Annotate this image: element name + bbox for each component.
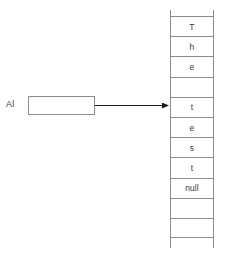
array-cell[interactable]: e — [170, 117, 214, 137]
array-cell-value: s — [190, 143, 194, 153]
reference-label: Al — [6, 98, 14, 110]
array-cell[interactable] — [170, 77, 214, 97]
array-cell-value: e — [190, 123, 195, 133]
array-cell[interactable]: null — [170, 178, 214, 198]
array-cell-value: T — [189, 22, 194, 32]
array-cell[interactable]: h — [170, 36, 214, 56]
reference-box[interactable] — [28, 96, 95, 115]
array-cell-value: t — [191, 163, 193, 173]
array-rail-bottom-left — [170, 238, 171, 248]
array-cell[interactable]: t — [170, 157, 214, 177]
array-cell[interactable]: s — [170, 137, 214, 157]
array-cell[interactable] — [170, 198, 214, 218]
array-cell-value: e — [190, 62, 195, 72]
array-cell-value: h — [190, 42, 195, 52]
diagram-canvas: Al T h e t e s t null — [0, 0, 231, 259]
array-cell-value: t — [191, 102, 193, 112]
array-cell-value: null — [185, 183, 199, 193]
array-cell[interactable]: t — [170, 97, 214, 117]
array-rail-bottom-right — [213, 238, 214, 248]
array-cell[interactable] — [170, 218, 214, 238]
array-cell[interactable]: e — [170, 56, 214, 76]
character-array: T h e t e s t null — [170, 16, 214, 238]
array-cell[interactable]: T — [170, 16, 214, 36]
